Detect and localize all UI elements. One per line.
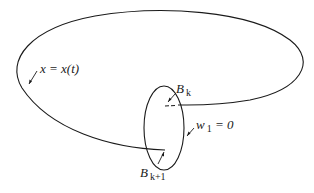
w1-label-rest: = 0: [212, 117, 234, 132]
trajectory-hidden-segment: [165, 106, 176, 107]
bk-label-sub: k: [186, 87, 191, 98]
trajectory-curve: [17, 11, 303, 150]
bk-label: Bk: [176, 82, 191, 95]
bk-label-base: B: [176, 81, 184, 96]
bk1-label-sub: k+1: [150, 171, 166, 182]
bk1-label: Bk+1: [140, 166, 166, 179]
trajectory-label: x = x(t): [40, 62, 79, 75]
w1-label-base: w: [196, 117, 205, 132]
diagram-canvas: x = x(t) Bk w1 = 0 Bk+1: [0, 0, 314, 193]
surface-ellipse: [144, 86, 184, 170]
bk1-label-base: B: [140, 165, 148, 180]
w1-label: w1 = 0: [196, 118, 233, 131]
w1-label-sub: 1: [207, 123, 212, 134]
diagram-svg: [0, 0, 314, 193]
